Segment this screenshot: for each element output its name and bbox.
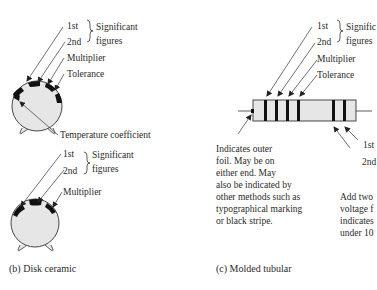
label-multiplier-bottom: Multiplier [63,187,102,198]
label-figures-top: figures [96,36,122,47]
label-figures-bottom: figures [92,164,118,175]
caption-molded-tubular: (c) Molded tubular [216,263,292,274]
label-tolerance-tubular: Tolerance [317,70,354,81]
disk-capacitor-bottom [11,199,59,251]
outer-foil-note: Indicates outer foil. May be on either e… [216,143,302,227]
caption-disk-ceramic: (b) Disk ceramic [9,263,76,274]
molded-tubular-capacitor [238,100,372,121]
label-1st-bottom: 1st [63,149,74,160]
voltage-note: Add two voltage f indicates under 10 [340,191,374,239]
label-significant-tubular: Signific [346,22,376,33]
label-multiplier-top: Multiplier [67,53,106,64]
label-temperature-coefficient: Temperature coefficient [60,130,151,141]
label-significant-bottom: Significant [92,150,134,161]
label-figures-tubular: figures [346,36,372,47]
label-1st-top: 1st [67,21,78,32]
label-right-2nd: 2nd [362,157,376,168]
disk-capacitor-top [12,81,62,134]
label-1st-tubular: 1st [317,21,328,32]
label-2nd-tubular: 2nd [317,37,331,48]
label-multiplier-tubular: Multiplier [317,54,356,65]
label-tolerance-top: Tolerance [67,69,104,80]
label-significant-top: Significant [96,22,138,33]
label-right-1st: 1st [363,140,374,151]
label-2nd-bottom: 2nd [63,166,77,177]
label-2nd-top: 2nd [67,37,81,48]
